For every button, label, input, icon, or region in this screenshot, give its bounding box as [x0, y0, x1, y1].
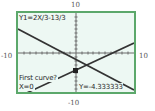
calculator-screen: Y1=2X/3-13/3 First curve? X=0 Y=-4.33333…: [16, 11, 136, 94]
xmax-label: 10: [139, 52, 148, 60]
ymin-label: -10: [68, 99, 79, 107]
xmin-label: -10: [1, 52, 12, 60]
ymax-label: 10: [71, 1, 80, 9]
prompt-text: First curve?: [19, 74, 58, 82]
x-readout: X=0: [19, 83, 35, 91]
y-readout: Y=-4.333333: [78, 83, 123, 91]
equation-label: Y1=2X/3-13/3: [19, 14, 68, 22]
trace-cursor: [73, 68, 78, 73]
